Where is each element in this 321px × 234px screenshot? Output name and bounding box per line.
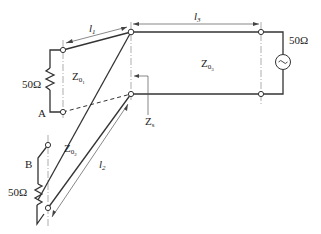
arrowhead-icon xyxy=(66,39,73,43)
zs-label: Zs xyxy=(145,115,155,129)
node-junction-bottom xyxy=(128,91,133,96)
source-impedance-value: 50Ω xyxy=(289,34,308,46)
source-top-wire xyxy=(261,32,283,54)
arrowhead-icon xyxy=(253,22,259,26)
transmission-line-diagram: l1 l3 l2 Z01 Z03 Z02 Zs 50Ω A B 50Ω 50Ω xyxy=(0,0,321,234)
node-A-bottom xyxy=(60,109,65,114)
resistor-A-icon xyxy=(46,68,54,90)
node-source-bottom xyxy=(258,91,263,96)
load-A-value: 50Ω xyxy=(22,78,41,90)
node-source-top xyxy=(258,29,263,34)
zs-indicator-line xyxy=(134,76,148,115)
arrowhead-icon xyxy=(133,22,139,26)
load-A-bottom-wire xyxy=(50,90,63,112)
load-B-value: 50Ω xyxy=(8,186,27,198)
load-B-top-wire xyxy=(38,145,48,184)
load-B-bottom-wire xyxy=(37,205,44,224)
arrowhead-icon xyxy=(124,104,128,111)
point-A-label: A xyxy=(38,107,46,119)
l1-label: l1 xyxy=(89,22,96,36)
node-B-bottom xyxy=(45,205,50,210)
z01-label: Z01 xyxy=(72,70,85,85)
source-bottom-wire xyxy=(261,70,283,94)
node-B-top xyxy=(45,142,50,147)
z03-label: Z03 xyxy=(201,57,214,72)
node-A-top xyxy=(60,47,65,52)
l2-dimension-line xyxy=(52,104,128,217)
node-junction-top xyxy=(128,29,134,35)
z02-label: Z02 xyxy=(64,142,77,157)
line-1-2-diagonal-conductor xyxy=(38,32,131,200)
l2-label: l2 xyxy=(99,158,106,172)
hidden-conductor xyxy=(63,94,131,112)
load-A-top-wire xyxy=(50,50,63,68)
arrowhead-icon xyxy=(134,74,139,78)
point-B-label: B xyxy=(25,158,32,170)
l3-label: l3 xyxy=(194,10,201,24)
arrowhead-icon xyxy=(52,210,56,217)
resistor-B-icon xyxy=(35,184,42,205)
arrowhead-icon xyxy=(121,27,127,31)
